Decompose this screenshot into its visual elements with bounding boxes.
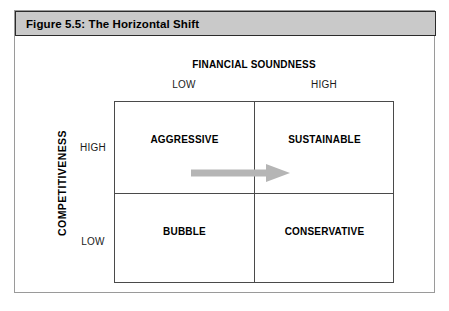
quadrant-matrix: AGGRESSIVE SUSTAINABLE BUBBLE CONSERVATI… <box>114 101 394 283</box>
figure-title: Figure 5.5: The Horizontal Shift <box>26 18 199 30</box>
row-axis-title: COMPETITIVENESS <box>56 92 68 274</box>
quadrant-cell-sustainable: SUSTAINABLE <box>255 102 394 193</box>
row-tick-low: LOW <box>73 236 113 247</box>
quadrant-cell-aggressive: AGGRESSIVE <box>115 102 254 193</box>
column-tick-low: LOW <box>114 79 254 90</box>
figure-body: FINANCIAL SOUNDNESS LOW HIGH COMPETITIVE… <box>15 36 436 292</box>
quadrant-label-bubble: BUBBLE <box>163 226 206 237</box>
quadrant-label-conservative: CONSERVATIVE <box>285 226 365 237</box>
column-tick-high: HIGH <box>254 79 394 90</box>
figure-title-bar: Figure 5.5: The Horizontal Shift <box>15 11 436 36</box>
quadrant-cell-bubble: BUBBLE <box>115 194 254 285</box>
quadrant-cell-conservative: CONSERVATIVE <box>255 194 394 285</box>
row-tick-high: HIGH <box>73 142 113 153</box>
quadrant-label-sustainable: SUSTAINABLE <box>288 134 361 145</box>
quadrant-label-aggressive: AGGRESSIVE <box>150 134 218 145</box>
figure-frame: Figure 5.5: The Horizontal Shift FINANCI… <box>14 10 435 293</box>
column-axis-title: FINANCIAL SOUNDNESS <box>114 59 394 70</box>
